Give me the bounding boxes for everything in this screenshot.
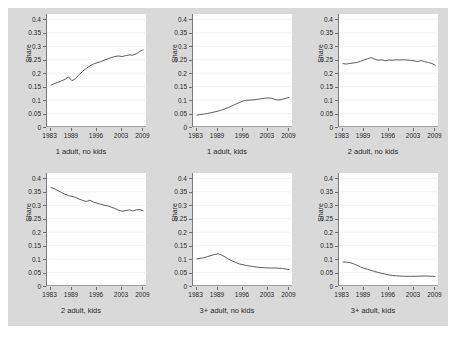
y-tick-mark bbox=[335, 273, 338, 274]
x-tick-mark bbox=[363, 128, 364, 131]
y-tick-label: 0.15 bbox=[300, 83, 333, 90]
y-tick-mark bbox=[335, 46, 338, 47]
x-tick-label: 1989 bbox=[349, 132, 377, 140]
x-tick-mark bbox=[196, 287, 197, 290]
chart-panel-one-adult-kids: Share00.050.10.150.20.250.30.350.4198319… bbox=[154, 8, 300, 167]
x-tick-mark bbox=[363, 287, 364, 290]
y-tick-mark bbox=[43, 178, 46, 179]
y-tick-label: 0.35 bbox=[8, 188, 41, 195]
chart-panel-three-plus-adult-kids: Share00.050.10.150.20.250.30.350.4198319… bbox=[300, 167, 446, 326]
y-tick-mark bbox=[43, 100, 46, 101]
chart-panel-three-plus-adult-no-kids: Share00.050.10.150.20.250.30.350.4198319… bbox=[154, 167, 300, 326]
y-tick-mark bbox=[335, 100, 338, 101]
y-tick-mark bbox=[189, 205, 192, 206]
y-tick-label: 0.3 bbox=[300, 202, 333, 209]
y-tick-label: 0.35 bbox=[8, 29, 41, 36]
y-tick-mark bbox=[43, 219, 46, 220]
x-tick-label: 2009 bbox=[420, 132, 448, 140]
y-tick-label: 0.3 bbox=[154, 202, 187, 209]
y-tick-mark bbox=[335, 246, 338, 247]
y-tick-label: 0.2 bbox=[154, 70, 187, 77]
x-tick-label: 1996 bbox=[374, 291, 402, 299]
y-tick-mark bbox=[43, 33, 46, 34]
figure-panel-grid: Share00.050.10.150.20.250.30.350.4198319… bbox=[8, 8, 448, 326]
x-tick-mark bbox=[242, 287, 243, 290]
x-tick-mark bbox=[50, 287, 51, 290]
plot-area bbox=[192, 173, 292, 286]
y-tick-mark bbox=[43, 19, 46, 20]
y-tick-mark bbox=[43, 127, 46, 128]
x-tick-label: 2009 bbox=[128, 132, 156, 140]
y-tick-label: 0 bbox=[154, 283, 187, 290]
x-tick-mark bbox=[50, 128, 51, 131]
chart-panel-two-adult-kids: Share00.050.10.150.20.250.30.350.4198319… bbox=[8, 167, 154, 326]
y-tick-label: 0.3 bbox=[154, 43, 187, 50]
y-tick-label: 0.1 bbox=[154, 256, 187, 263]
x-tick-label: 1996 bbox=[374, 132, 402, 140]
x-tick-mark bbox=[342, 128, 343, 131]
series-line-one-adult-kids bbox=[193, 14, 293, 127]
y-tick-label: 0.05 bbox=[8, 269, 41, 276]
y-tick-mark bbox=[189, 178, 192, 179]
y-tick-mark bbox=[43, 205, 46, 206]
chart-panel-one-adult-no-kids: Share00.050.10.150.20.250.30.350.4198319… bbox=[8, 8, 154, 167]
y-tick-label: 0.05 bbox=[154, 269, 187, 276]
x-tick-mark bbox=[388, 128, 389, 131]
x-tick-mark bbox=[71, 128, 72, 131]
y-tick-label: 0.25 bbox=[300, 215, 333, 222]
y-tick-mark bbox=[335, 219, 338, 220]
y-tick-label: 0.15 bbox=[300, 242, 333, 249]
x-tick-mark bbox=[142, 128, 143, 131]
y-tick-mark bbox=[189, 192, 192, 193]
y-tick-label: 0.15 bbox=[8, 83, 41, 90]
y-tick-mark bbox=[189, 46, 192, 47]
y-tick-label: 0.2 bbox=[154, 229, 187, 236]
y-tick-label: 0.4 bbox=[154, 16, 187, 23]
y-tick-label: 0.3 bbox=[300, 43, 333, 50]
x-tick-mark bbox=[288, 287, 289, 290]
y-tick-mark bbox=[335, 192, 338, 193]
x-tick-label: 1996 bbox=[228, 291, 256, 299]
x-tick-mark bbox=[217, 287, 218, 290]
panel-caption-two-adult-no-kids: 2 adult, no kids bbox=[300, 147, 446, 156]
y-tick-label: 0.3 bbox=[8, 202, 41, 209]
x-tick-mark bbox=[267, 128, 268, 131]
y-tick-mark bbox=[43, 192, 46, 193]
x-tick-label: 1989 bbox=[57, 132, 85, 140]
y-tick-mark bbox=[43, 259, 46, 260]
y-tick-label: 0.4 bbox=[8, 16, 41, 23]
y-tick-label: 0.25 bbox=[300, 56, 333, 63]
y-tick-mark bbox=[335, 178, 338, 179]
y-tick-mark bbox=[189, 114, 192, 115]
y-tick-label: 0.1 bbox=[300, 97, 333, 104]
panel-caption-two-adult-kids: 2 adult, kids bbox=[8, 306, 154, 315]
panel-caption-three-plus-adult-kids: 3+ adult, kids bbox=[300, 306, 446, 315]
y-tick-label: 0.15 bbox=[8, 242, 41, 249]
x-tick-mark bbox=[434, 287, 435, 290]
y-tick-label: 0.35 bbox=[154, 188, 187, 195]
y-tick-label: 0.4 bbox=[300, 16, 333, 23]
y-tick-mark bbox=[189, 33, 192, 34]
x-tick-mark bbox=[71, 287, 72, 290]
y-tick-mark bbox=[43, 232, 46, 233]
plot-area bbox=[46, 14, 146, 127]
y-tick-mark bbox=[335, 60, 338, 61]
y-tick-mark bbox=[189, 127, 192, 128]
x-tick-mark bbox=[342, 287, 343, 290]
y-tick-label: 0 bbox=[8, 283, 41, 290]
plot-area bbox=[46, 173, 146, 286]
series-line-three-plus-adult-kids bbox=[339, 173, 439, 286]
y-tick-mark bbox=[43, 73, 46, 74]
x-tick-mark bbox=[217, 128, 218, 131]
y-tick-mark bbox=[189, 259, 192, 260]
y-tick-mark bbox=[189, 219, 192, 220]
y-tick-mark bbox=[335, 73, 338, 74]
panel-caption-three-plus-adult-no-kids: 3+ adult, no kids bbox=[154, 306, 300, 315]
y-tick-label: 0.25 bbox=[8, 56, 41, 63]
y-tick-label: 0.05 bbox=[154, 110, 187, 117]
y-tick-label: 0.05 bbox=[8, 110, 41, 117]
y-tick-label: 0.05 bbox=[300, 269, 333, 276]
y-tick-mark bbox=[43, 114, 46, 115]
x-tick-mark bbox=[434, 128, 435, 131]
x-tick-mark bbox=[121, 287, 122, 290]
